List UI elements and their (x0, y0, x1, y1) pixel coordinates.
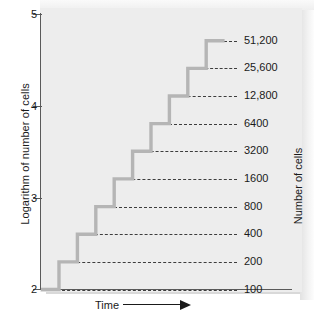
y-tick-label-4: 4 (13, 101, 37, 112)
reference-line-6400 (154, 124, 237, 125)
reference-line-51200 (209, 41, 237, 42)
cell-count-label-51200: 51,200 (244, 35, 278, 46)
x-axis-title: Time (95, 299, 119, 311)
reference-line-400 (80, 234, 237, 235)
x-axis-group: Time (95, 297, 245, 313)
reference-line-100 (57, 290, 237, 291)
cell-count-label-100: 100 (244, 284, 262, 295)
chart-figure: Logarithm of number of cells 5 4 3 2 Num… (0, 0, 322, 315)
cell-count-label-3200: 3200 (244, 145, 268, 156)
y-tick-label-3: 3 (13, 193, 37, 204)
cell-count-label-200: 200 (244, 256, 262, 267)
cell-count-label-6400: 6400 (244, 118, 268, 129)
secondary-y-axis-title: Number of cells (292, 126, 304, 246)
cell-count-label-800: 800 (244, 201, 262, 212)
cell-count-label-25600: 25,600 (244, 62, 278, 73)
cell-count-label-12800: 12,800 (244, 90, 278, 101)
reference-line-800 (99, 207, 237, 208)
y-axis-title: Logarithm of number of cells (19, 54, 31, 254)
time-arrow-icon (123, 300, 193, 310)
y-tick-label-5: 5 (13, 9, 37, 20)
reference-line-3200 (136, 151, 237, 152)
y-tick-label-2: 2 (13, 284, 37, 295)
reference-line-1600 (117, 179, 237, 180)
cell-count-label-400: 400 (244, 228, 262, 239)
reference-line-12800 (172, 96, 237, 97)
reference-line-25600 (191, 68, 237, 69)
reference-line-200 (62, 262, 237, 263)
cell-count-label-1600: 1600 (244, 173, 268, 184)
